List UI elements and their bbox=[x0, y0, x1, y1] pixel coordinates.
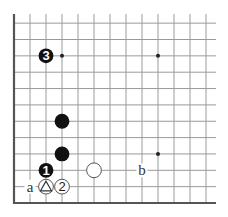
label-b: b bbox=[137, 162, 148, 178]
white-stone: 2 bbox=[55, 179, 70, 194]
move-number: 1 bbox=[42, 163, 49, 178]
point-label-text: a bbox=[27, 179, 34, 195]
black-stone-body bbox=[55, 114, 70, 129]
move-number: 3 bbox=[42, 48, 49, 63]
star-point bbox=[156, 152, 160, 156]
black-stone bbox=[55, 147, 70, 162]
black-stone: 1 bbox=[39, 163, 54, 178]
move-number: 2 bbox=[58, 179, 65, 194]
label-a: a bbox=[25, 179, 36, 195]
black-stone bbox=[55, 114, 70, 129]
black-stone: 3 bbox=[39, 48, 54, 63]
star-point bbox=[60, 54, 64, 58]
white-stone bbox=[39, 179, 54, 194]
star-point bbox=[156, 54, 160, 58]
white-stone bbox=[87, 163, 102, 178]
black-stone-body bbox=[55, 147, 70, 162]
white-stone-body bbox=[87, 163, 102, 178]
go-board-diagram: 312 ab bbox=[0, 0, 228, 217]
point-label-text: b bbox=[138, 162, 146, 178]
